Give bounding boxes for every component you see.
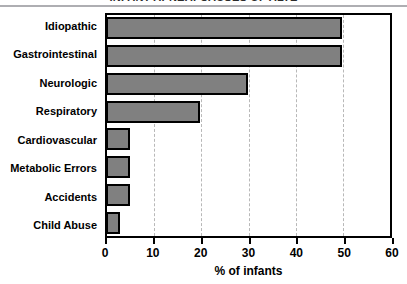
- x-axis-tick-label: 10: [146, 246, 159, 260]
- bar: [106, 184, 130, 206]
- x-axis-tick-label: 30: [242, 246, 255, 260]
- x-axis-tick-label: 50: [337, 246, 350, 260]
- bar-row: [107, 128, 390, 150]
- bar-chart: IdiopathicGastrointestinalNeurologicResp…: [0, 8, 407, 284]
- bar: [106, 128, 130, 150]
- x-axis-tick: [153, 238, 155, 244]
- y-axis-label: Neurologic: [0, 72, 101, 94]
- bar: [106, 156, 130, 178]
- plot-area: [105, 13, 392, 238]
- x-axis-tick: [344, 238, 346, 244]
- bar-row: [107, 184, 390, 206]
- bar-row: [107, 17, 390, 39]
- y-axis-label: Accidents: [0, 186, 101, 208]
- y-axis-category-labels: IdiopathicGastrointestinalNeurologicResp…: [0, 13, 101, 238]
- x-axis-tick: [392, 238, 394, 244]
- y-axis-label: Respiratory: [0, 100, 101, 122]
- y-axis-label: Metabolic Errors: [0, 157, 101, 179]
- bar-series: [107, 15, 390, 236]
- bar: [106, 212, 120, 234]
- bar-row: [107, 156, 390, 178]
- bar: [106, 101, 200, 123]
- x-axis-tick: [296, 238, 298, 244]
- x-axis-tick-label: 40: [290, 246, 303, 260]
- bar: [106, 17, 342, 39]
- x-axis-tick-label: 20: [194, 246, 207, 260]
- y-axis-label: Idiopathic: [0, 15, 101, 37]
- y-axis-label: Child Abuse: [0, 214, 101, 236]
- bar: [106, 73, 248, 95]
- x-axis-tick-label: 60: [385, 246, 398, 260]
- y-axis-label: Gastrointestinal: [0, 43, 101, 65]
- bar-row: [107, 45, 390, 67]
- title-divider: [0, 5, 407, 7]
- x-axis-tick: [201, 238, 203, 244]
- bar-row: [107, 212, 390, 234]
- x-axis-tick: [105, 238, 107, 244]
- x-axis-tick: [249, 238, 251, 244]
- bar-row: [107, 101, 390, 123]
- y-axis-label: Cardiovascular: [0, 129, 101, 151]
- chart-title-clipped: INFANT APNEA: CAUSES OF ALTE: [0, 0, 407, 3]
- x-axis-ticks: [105, 238, 392, 244]
- x-axis-title: % of infants: [105, 264, 392, 278]
- bar-row: [107, 73, 390, 95]
- bar: [106, 45, 342, 67]
- x-axis-tick-label: 0: [102, 246, 109, 260]
- x-axis-tick-labels: 0102030405060: [105, 246, 392, 262]
